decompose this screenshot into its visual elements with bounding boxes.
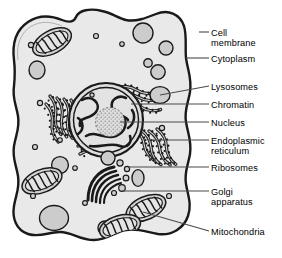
nucleus-structure — [69, 83, 143, 157]
cell-diagram-canvas: Cellmembrane Cytoplasm Lysosomes Chromat… — [0, 0, 282, 258]
label-cell-membrane: Cellmembrane — [211, 28, 256, 49]
label-mitochondria: Mitochondria — [211, 227, 265, 237]
label-lysosomes: Lysosomes — [211, 82, 258, 92]
label-golgi-apparatus: Golgiapparatus — [211, 187, 253, 208]
label-cytoplasm: Cytoplasm — [211, 54, 255, 64]
label-nucleus: Nucleus — [211, 118, 245, 128]
label-ribosomes: Ribosomes — [211, 163, 258, 173]
label-endoplasmic-reticulum: Endoplasmicreticulum — [211, 136, 265, 157]
label-chromatin: Chromatin — [211, 100, 254, 110]
